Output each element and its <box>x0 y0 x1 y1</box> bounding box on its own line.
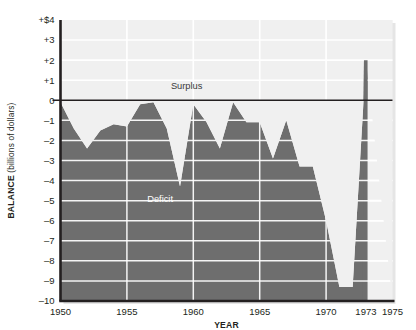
y-tick-label: –8 <box>44 255 55 266</box>
x-tick-label: 1965 <box>249 306 270 317</box>
y-tick-label: –2 <box>44 135 55 146</box>
y-tick-label: +1 <box>44 75 55 86</box>
y-tick-label: +$4 <box>38 14 54 25</box>
y-tick-label: –4 <box>44 175 55 186</box>
series-area-group <box>61 20 393 301</box>
y-tick-label: +2 <box>44 55 55 66</box>
y-tick-label: –9 <box>44 275 55 286</box>
balance-area-chart: +$4+3+2+10–1–2–3–4–5–6–7–8–9–10195019551… <box>0 0 416 330</box>
y-axis-title-bold: BALANCE <box>6 175 16 218</box>
y-tick-label: –7 <box>44 235 55 246</box>
y-tick-label: –1 <box>44 115 55 126</box>
x-axis-title: YEAR <box>214 320 239 330</box>
surplus-spike-1973-upper <box>363 60 367 100</box>
x-tick-label: 1975 <box>382 306 403 317</box>
chart-figure: +$4+3+2+10–1–2–3–4–5–6–7–8–9–10195019551… <box>0 0 416 330</box>
x-tick-label: 1973 <box>355 306 376 317</box>
y-tick-label: +3 <box>44 34 55 45</box>
x-tick-label: 1960 <box>183 306 204 317</box>
annotation-deficit: Deficit <box>147 194 173 204</box>
y-tick-label: 0 <box>49 95 54 106</box>
y-tick-label: –3 <box>44 155 55 166</box>
x-tick-label: 1970 <box>316 306 337 317</box>
svg-text:BALANCE (billions of dollars): BALANCE (billions of dollars) <box>6 102 16 218</box>
annotation-surplus: Surplus <box>171 81 203 91</box>
y-axis-title: BALANCE (billions of dollars) <box>6 102 16 218</box>
y-axis-title-units: (billions of dollars) <box>7 102 16 175</box>
x-tick-label: 1955 <box>116 306 137 317</box>
y-tick-label: –6 <box>44 215 55 226</box>
x-tick-label: 1950 <box>50 306 71 317</box>
y-tick-label: –5 <box>44 195 55 206</box>
